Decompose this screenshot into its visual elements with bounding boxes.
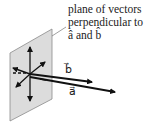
leader-line <box>52 27 66 36</box>
vector-a-label: a⃗ <box>69 85 76 98</box>
caption-line-1: plane of vectors <box>68 3 141 16</box>
caption-line-3: â and b̂ <box>68 29 101 42</box>
vector-b-label: b⃗ <box>65 63 72 76</box>
caption-line-2: perpendicular to <box>68 16 143 29</box>
vector-a-base-mark <box>40 79 46 80</box>
